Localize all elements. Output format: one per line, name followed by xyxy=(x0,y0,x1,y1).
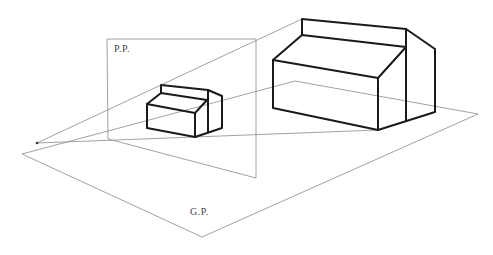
perspective-diagram xyxy=(0,0,493,255)
picture-plane-label: P.P. xyxy=(114,43,130,54)
small-house-projection xyxy=(147,85,222,137)
ground-plane xyxy=(22,81,478,237)
station-point-icon xyxy=(36,142,39,145)
picture-plane xyxy=(107,39,256,178)
sight-line-top xyxy=(37,19,302,143)
large-house-object xyxy=(273,19,435,130)
ground-plane-label: G.P. xyxy=(190,206,209,217)
